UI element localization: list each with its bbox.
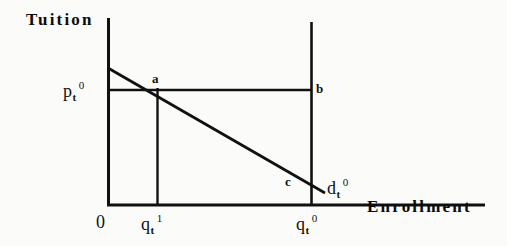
quantity-1-label-subscript: t [151, 224, 155, 236]
quantity-0-label-superscript: 0 [312, 212, 318, 224]
demand-label-d-t-0: dt0 [327, 177, 348, 200]
point-label-c: c [285, 175, 291, 188]
origin-label: 0 [96, 213, 105, 231]
price-label-base: p [63, 81, 72, 101]
tuition-enrollment-diagram: Tuition Enrollment 0 pt0 qt1 qt0 dt0 a b… [0, 0, 507, 246]
quantity-1-label-superscript: 1 [157, 212, 163, 224]
point-label-a: a [152, 72, 159, 85]
quantity-label-q-t-0: qt0 [296, 213, 317, 236]
demand-label-base: d [327, 178, 336, 198]
x-axis-title: Enrollment [367, 198, 472, 215]
price-label-superscript: 0 [79, 79, 85, 91]
price-label-subscript: t [73, 91, 77, 103]
quantity-0-label-base: q [296, 214, 305, 234]
demand-curve-d-t-0 [108, 68, 325, 193]
y-axis-title: Tuition [26, 11, 94, 28]
quantity-1-label-base: q [141, 214, 150, 234]
demand-label-subscript: t [337, 188, 341, 200]
demand-label-superscript: 0 [343, 176, 349, 188]
quantity-0-label-subscript: t [306, 224, 310, 236]
quantity-label-q-t-1: qt1 [141, 213, 162, 236]
point-label-b: b [316, 82, 323, 95]
price-label-p-t-0: pt0 [63, 80, 84, 103]
